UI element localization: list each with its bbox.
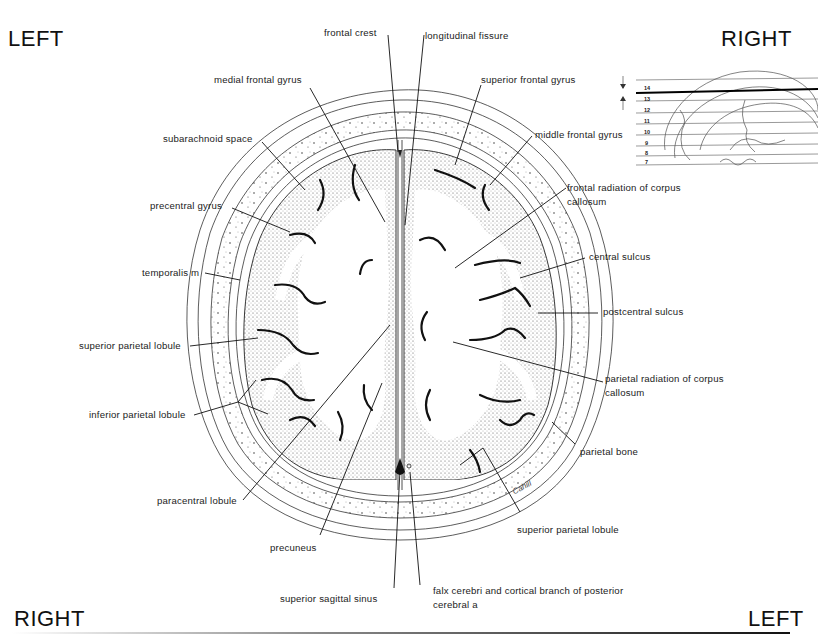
label-frontal-crest: frontal crest xyxy=(324,26,377,40)
inset-level-13: 13 xyxy=(644,96,650,102)
label-central-sulcus: central sulcus xyxy=(589,250,650,264)
inset-level-7: 7 xyxy=(645,159,648,165)
label-superior-frontal-gyrus: superior frontal gyrus xyxy=(481,73,576,87)
label-middle-frontal-gyrus: middle frontal gyrus xyxy=(535,128,623,142)
label-inferior-parietal-lobule: inferior parietal lobule xyxy=(89,408,186,422)
inset-level-14: 14 xyxy=(644,85,650,91)
label-precuneus: precuneus xyxy=(270,541,317,555)
label-postcentral-sulcus: postcentral sulcus xyxy=(603,305,683,319)
label-longitudinal-fissure: longitudinal fissure xyxy=(425,29,508,43)
label-medial-frontal-gyrus: medial frontal gyrus xyxy=(214,73,302,87)
label-frontal-radiation-corpus-callosum: frontal radiation of corpus callosum xyxy=(567,181,717,209)
inset-level-10: 10 xyxy=(644,129,650,135)
label-precentral-gyrus: precentral gyrus xyxy=(150,199,222,213)
label-subarachnoid-space: subarachnoid space xyxy=(163,132,252,146)
inset-level-8: 8 xyxy=(645,150,648,156)
brain-axial-section-illustration xyxy=(0,0,818,638)
label-parietal-radiation-corpus-callosum: parietal radiation of corpus callosum xyxy=(605,372,745,400)
label-paracentral-lobule: paracentral lobule xyxy=(157,494,237,508)
label-superior-sagittal-sinus: superior sagittal sinus xyxy=(280,592,377,606)
inset-level-12: 12 xyxy=(644,107,650,113)
label-superior-parietal-lobule-right-side: superior parietal lobule xyxy=(517,523,619,537)
label-temporalis-m: temporalis m xyxy=(142,266,199,280)
label-parietal-bone: parietal bone xyxy=(580,445,638,459)
label-superior-parietal-lobule-left-side: superior parietal lobule xyxy=(79,339,181,353)
label-falx-cerebri-and-cortical-branch: falx cerebri and cortical branch of post… xyxy=(433,584,648,612)
inset-level-9: 9 xyxy=(645,140,648,146)
inset-level-11: 11 xyxy=(644,118,650,124)
